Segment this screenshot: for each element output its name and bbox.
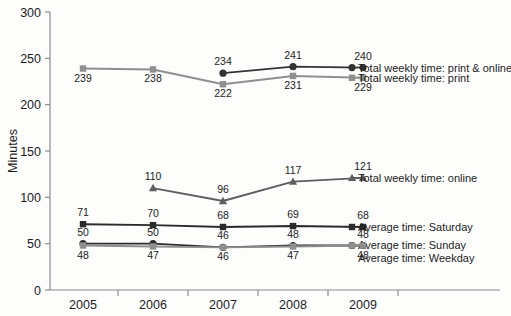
legend-marker — [349, 224, 355, 230]
y-axis-title: Minutes — [6, 129, 20, 173]
x-tick-label: 2005 — [69, 298, 97, 312]
y-tick-label: 300 — [20, 6, 41, 20]
y-tick-label: 50 — [27, 237, 41, 251]
y-tick-label: 250 — [20, 52, 41, 66]
legend-label: Average time: Saturday — [358, 221, 473, 233]
line-chart: 30025020015010050020052006200720082009Mi… — [0, 0, 511, 316]
series-average-time-saturday: 7170686968Average time: Saturday — [77, 206, 473, 233]
data-label: 121 — [354, 160, 372, 172]
y-tick-label: 100 — [20, 191, 41, 205]
x-tick-label: 2009 — [349, 298, 377, 312]
data-label: 48 — [287, 228, 299, 240]
x-tick-label: 2006 — [139, 298, 167, 312]
data-label: 96 — [217, 183, 229, 195]
data-label: 46 — [217, 229, 229, 241]
data-label: 48 — [77, 249, 89, 261]
data-label: 68 — [357, 209, 369, 221]
data-label: 50 — [147, 226, 159, 238]
data-label: 68 — [217, 209, 229, 221]
data-label: 70 — [147, 207, 159, 219]
legend-marker — [349, 242, 355, 248]
data-label: 117 — [285, 164, 302, 176]
data-label: 241 — [284, 49, 302, 61]
data-label: 222 — [214, 87, 232, 99]
x-tick-label: 2007 — [209, 298, 237, 312]
data-point-marker — [289, 63, 296, 70]
data-label: 110 — [145, 170, 162, 182]
data-label: 50 — [77, 226, 89, 238]
chart-canvas: 30025020015010050020052006200720082009Mi… — [0, 0, 511, 316]
series-total-weekly-time-online: 11096117121Total weekly time: online — [145, 160, 478, 204]
data-label: 71 — [77, 206, 89, 218]
legend-marker — [348, 64, 355, 71]
data-label: 47 — [147, 249, 159, 261]
data-label: 47 — [287, 249, 299, 261]
axes: 30025020015010050020052006200720082009Mi… — [6, 6, 500, 313]
data-label: 240 — [354, 50, 372, 62]
legend-label: Average time: Weekday — [358, 252, 475, 264]
data-point-marker — [219, 70, 226, 77]
y-tick-label: 0 — [34, 284, 41, 298]
legend-label: Total weekly time: online — [358, 172, 477, 184]
data-label: 46 — [217, 250, 229, 262]
y-tick-label: 150 — [20, 145, 41, 159]
data-label: 238 — [144, 72, 162, 84]
data-point-marker — [149, 184, 157, 191]
data-label: 234 — [214, 55, 232, 67]
legend-label: Average time: Sunday — [358, 239, 467, 251]
data-label: 239 — [74, 72, 92, 84]
y-tick-label: 200 — [20, 98, 41, 112]
data-label: 69 — [287, 208, 299, 220]
legend-label: Total weekly time: print — [358, 72, 469, 84]
data-label: 231 — [284, 79, 302, 91]
x-tick-label: 2008 — [279, 298, 307, 312]
series-line — [153, 178, 363, 201]
